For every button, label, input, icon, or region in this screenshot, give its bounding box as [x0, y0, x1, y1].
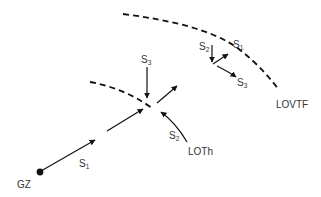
s1-main-label: S1: [79, 158, 90, 170]
gz-label: GZ: [17, 179, 31, 190]
loth-label: LOTh: [188, 146, 213, 157]
s3-upper-label: S3: [237, 77, 248, 89]
lovtf-label: LOVTF: [276, 99, 308, 110]
s2-upper-label: S2: [199, 41, 210, 53]
s2-main-label: S2: [169, 130, 180, 142]
s3-main-label: S3: [141, 54, 152, 66]
diagram-canvas: GZ S1 S3 S2 LOTh S2 S1 S3 LOVTF: [0, 0, 321, 197]
s1-upper-arrow: [213, 54, 228, 64]
outgoing-arrow: [157, 86, 177, 103]
inner-dashed-curve: [90, 82, 152, 108]
s1-upper-label: S1: [233, 39, 244, 51]
s1-arrow-upper: [107, 109, 143, 131]
s3-upper-arrow: [217, 66, 236, 77]
